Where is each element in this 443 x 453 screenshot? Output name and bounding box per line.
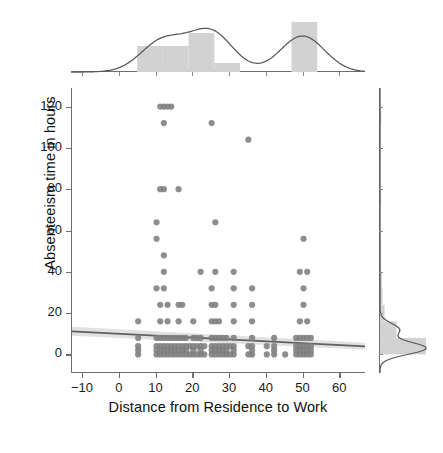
scatter-point (245, 137, 251, 143)
scatter-point (135, 335, 141, 341)
scatter-point (300, 236, 306, 242)
marginal-x-tick (119, 72, 120, 76)
x-axis-tick (156, 373, 157, 378)
scatter-point (297, 318, 303, 324)
marginal-x-bar (214, 63, 240, 72)
x-axis-label: Distance from Residence to Work (71, 399, 365, 415)
marginal-y-plot (380, 88, 438, 373)
x-axis-tick-label: 50 (283, 380, 323, 395)
marginal-y-tick (379, 231, 383, 232)
scatter-point (179, 302, 185, 308)
marginal-y-tick (379, 148, 383, 149)
y-axis-tick (66, 313, 71, 314)
scatter-point (212, 302, 218, 308)
scatter-points-layer (72, 88, 365, 372)
scatter-point (297, 269, 303, 275)
scatter-point (264, 351, 270, 357)
scatter-point (300, 302, 306, 308)
scatter-point (209, 285, 215, 291)
marginal-y-tick (379, 313, 383, 314)
x-axis-tick-label: −10 (62, 380, 102, 395)
scatter-point (153, 236, 159, 242)
scatter-point (212, 219, 218, 225)
scatter-point (304, 269, 310, 275)
scatter-plot-area (71, 88, 365, 373)
y-axis-tick (66, 231, 71, 232)
y-axis-tick (66, 148, 71, 149)
scatter-point (198, 335, 204, 341)
marginal-y-tick (379, 354, 383, 355)
scatter-point (271, 351, 277, 357)
marginal-x-tick (229, 72, 230, 76)
scatter-point (308, 351, 314, 357)
scatter-point (135, 351, 141, 357)
x-axis-tick-label: 30 (209, 380, 249, 395)
x-axis-tick (229, 373, 230, 378)
marginal-x-bar (189, 33, 215, 72)
y-axis-tick (66, 354, 71, 355)
scatter-point (231, 269, 237, 275)
marginal-y-panel (379, 88, 437, 373)
scatter-point (164, 318, 170, 324)
y-axis-label: Absenteeism time in hours (42, 53, 58, 313)
chart-figure: −100102030405060020406080100120 Distance… (0, 0, 443, 453)
scatter-point (249, 302, 255, 308)
scatter-point (135, 318, 141, 324)
x-axis-tick (339, 373, 340, 378)
scatter-points-group (135, 103, 314, 357)
scatter-point (231, 302, 237, 308)
scatter-point (157, 318, 163, 324)
scatter-point (161, 269, 167, 275)
scatter-point (175, 318, 181, 324)
marginal-y-bar (380, 321, 397, 338)
scatter-point (264, 343, 270, 349)
marginal-x-tick (303, 72, 304, 76)
scatter-point (231, 285, 237, 291)
scatter-point (231, 318, 237, 324)
marginal-x-bars (137, 22, 317, 72)
scatter-point (249, 335, 255, 341)
scatter-point (231, 351, 237, 357)
scatter-point (161, 252, 167, 258)
scatter-point (304, 318, 310, 324)
scatter-point (282, 351, 288, 357)
marginal-x-tick (82, 72, 83, 76)
scatter-point (209, 120, 215, 126)
scatter-point (216, 318, 222, 324)
x-axis-tick-label: 20 (172, 380, 212, 395)
scatter-point (190, 318, 196, 324)
marginal-x-tick (192, 72, 193, 76)
scatter-point (308, 335, 314, 341)
scatter-point (168, 103, 174, 109)
x-axis-tick (266, 373, 267, 378)
scatter-point (161, 186, 167, 192)
scatter-point (249, 351, 255, 357)
marginal-x-plot (71, 14, 365, 72)
scatter-point (249, 318, 255, 324)
scatter-point (183, 335, 189, 341)
x-axis-tick-label: 0 (99, 380, 139, 395)
scatter-point (161, 120, 167, 126)
marginal-x-bar (137, 46, 163, 72)
scatter-point (153, 285, 159, 291)
marginal-y-tick (379, 272, 383, 273)
marginal-x-panel (71, 14, 365, 72)
scatter-point (201, 351, 207, 357)
y-axis-tick-label: 0 (26, 345, 62, 360)
y-axis-tick (66, 189, 71, 190)
x-axis-tick (119, 373, 120, 378)
scatter-point (153, 219, 159, 225)
marginal-x-bar (163, 46, 189, 72)
marginal-y-bars (380, 107, 426, 355)
y-axis-tick (66, 107, 71, 108)
marginal-y-tick (379, 189, 383, 190)
marginal-x-tick (156, 72, 157, 76)
x-axis-tick (192, 373, 193, 378)
scatter-point (231, 335, 237, 341)
x-axis-tick-label: 10 (136, 380, 176, 395)
scatter-point (157, 302, 163, 308)
marginal-y-tick (379, 107, 383, 108)
y-axis-tick (66, 272, 71, 273)
scatter-point (164, 302, 170, 308)
marginal-x-tick (339, 72, 340, 76)
